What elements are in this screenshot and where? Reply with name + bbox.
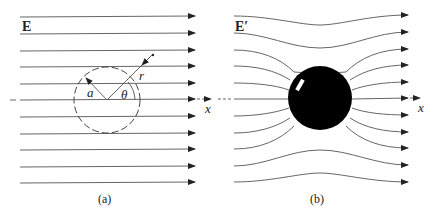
panel-a-field-label: E: [22, 19, 31, 35]
panel-b-x-label: x: [418, 100, 424, 116]
panel-a-caption: (a): [98, 192, 111, 207]
panel-a-r-label: r: [139, 68, 144, 84]
panel-a-x-label: x: [205, 101, 211, 117]
panel-a-theta-label: θ: [121, 87, 127, 103]
panel-b-caption: (b): [310, 192, 324, 207]
diagram-canvas: [0, 0, 434, 211]
panel-a-point-dot: [152, 54, 154, 56]
panel-b-field-label: E′: [235, 19, 248, 35]
panel-b-sphere: [288, 66, 352, 130]
panel-a-radius-label: a: [87, 85, 94, 101]
